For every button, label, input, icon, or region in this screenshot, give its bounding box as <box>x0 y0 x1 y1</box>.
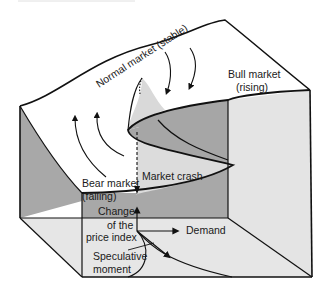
label-market-crash: Market crash <box>142 170 203 182</box>
cusp-catastrophe-diagram: Normal market (stable) Bull market (risi… <box>0 0 329 294</box>
label-bull-market: Bull market <box>228 68 281 80</box>
label-bull-market-sub: (rising) <box>236 81 268 93</box>
label-axis-speculative-1: Speculative <box>93 250 147 262</box>
label-axis-price-3: price index <box>86 231 138 243</box>
label-axis-price-1: Change <box>98 205 135 217</box>
label-bear-market: Bear market <box>82 177 139 189</box>
label-bear-market-sub: (falling) <box>82 190 116 202</box>
label-axis-demand: Demand <box>186 224 226 236</box>
label-axis-price-2: of the <box>107 219 133 231</box>
label-axis-speculative-2: moment <box>93 263 131 275</box>
